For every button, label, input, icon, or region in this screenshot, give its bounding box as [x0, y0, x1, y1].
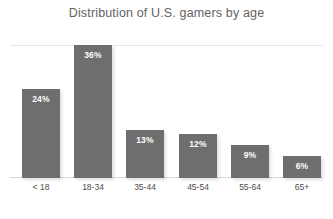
- x-axis-tick-label: 35-44: [126, 182, 164, 192]
- x-axis-tick-label: 18-34: [74, 182, 112, 192]
- bar[interactable]: 9%: [231, 145, 269, 178]
- bar-group: 24%: [22, 30, 60, 178]
- x-axis-labels: < 18 18-34 35-44 45-54 55-64 65+: [10, 182, 323, 198]
- bar-group: 36%: [74, 30, 112, 178]
- bar-group: 12%: [179, 30, 217, 178]
- x-axis-tick-label: < 18: [22, 182, 60, 192]
- bar[interactable]: 12%: [179, 134, 217, 178]
- bar-value-label: 24%: [22, 94, 60, 104]
- x-axis-tick-label: 45-54: [179, 182, 217, 192]
- x-axis-tick-label: 55-64: [231, 182, 269, 192]
- bars-layer: 24% 36% 13% 12% 9% 6%: [10, 30, 323, 178]
- bar-value-label: 6%: [283, 161, 321, 171]
- bar-value-label: 36%: [74, 50, 112, 60]
- bar-value-label: 12%: [179, 139, 217, 149]
- bar-group: 6%: [283, 30, 321, 178]
- bar-value-label: 9%: [231, 150, 269, 160]
- chart-title: Distribution of U.S. gamers by age: [0, 6, 333, 20]
- bar-group: 9%: [231, 30, 269, 178]
- bar[interactable]: 13%: [126, 130, 164, 178]
- bar-value-label: 13%: [126, 135, 164, 145]
- bar[interactable]: 36%: [74, 45, 112, 178]
- bar-group: 13%: [126, 30, 164, 178]
- bar[interactable]: 24%: [22, 89, 60, 178]
- bar[interactable]: 6%: [283, 156, 321, 178]
- x-axis-tick-label: 65+: [283, 182, 321, 192]
- bar-chart: Distribution of U.S. gamers by age 24% 3…: [0, 0, 333, 219]
